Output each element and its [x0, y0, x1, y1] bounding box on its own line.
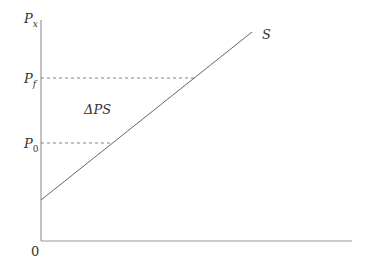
pf-label: Pf — [24, 72, 36, 89]
supply-curve — [41, 32, 252, 200]
origin-label: 0 — [31, 245, 39, 258]
p0-label: P0 — [24, 137, 38, 154]
supply-label: S — [262, 28, 271, 41]
delta-ps-label: ΔPS — [84, 103, 111, 116]
supply-diagram — [0, 0, 369, 270]
y-axis-label: Px — [24, 12, 38, 29]
